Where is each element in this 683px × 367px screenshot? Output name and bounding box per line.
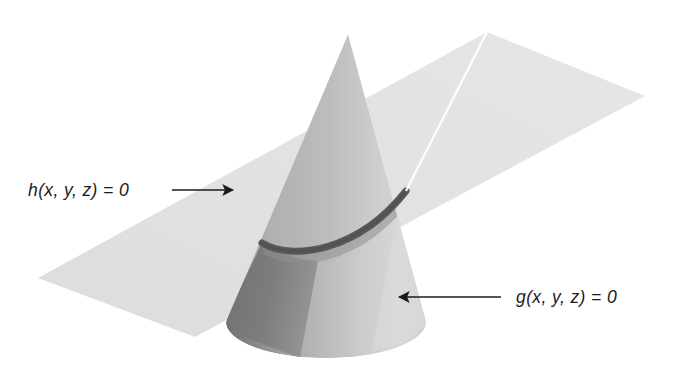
cone-label-text: g(x, y, z) = 0	[516, 287, 617, 307]
cone-plane-diagram: h(x, y, z) = 0 g(x, y, z) = 0	[0, 0, 683, 367]
plane-label-text: h(x, y, z) = 0	[28, 180, 129, 200]
figure-canvas: h(x, y, z) = 0 g(x, y, z) = 0	[0, 0, 683, 367]
annotation-cone: g(x, y, z) = 0	[399, 287, 617, 307]
